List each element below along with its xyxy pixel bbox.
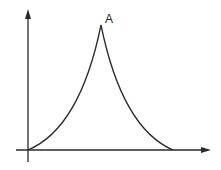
x-axis-arrow-icon [201, 147, 211, 153]
peak-label: A [105, 12, 113, 26]
y-axis-arrow-icon [25, 9, 31, 19]
x-axis [16, 147, 211, 153]
diagram-canvas: A [0, 0, 221, 170]
y-axis [25, 9, 31, 162]
cusp-curve [28, 25, 173, 150]
